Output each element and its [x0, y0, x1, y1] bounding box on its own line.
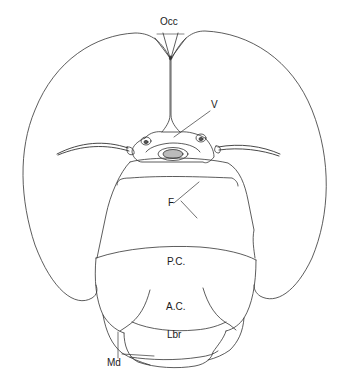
left-antenna: [57, 143, 129, 155]
insect-head-diagram: [0, 0, 346, 379]
label-postclypeus: P.C.: [167, 257, 185, 267]
label-labrum: Lbr: [167, 330, 181, 340]
label-mandible: Md: [107, 358, 121, 368]
anteclypeus-left-lobe: [120, 290, 150, 331]
anteclypeus-right-lobe: [203, 288, 236, 330]
f-leader-upper: [174, 182, 199, 203]
label-anteclypeus: A.C.: [166, 302, 185, 312]
occiput-fan: [155, 33, 186, 58]
f-leader-lower: [181, 201, 197, 218]
label-frons: F: [168, 198, 174, 208]
frons: [130, 158, 255, 258]
label-vertex: V: [211, 100, 218, 110]
frontal-suture: [117, 177, 238, 187]
right-antenna: [218, 145, 280, 156]
label-occiput: Occ: [160, 17, 178, 27]
median-ocellus: [163, 150, 183, 159]
median-suture: [162, 60, 180, 132]
left-compound-eye: [23, 33, 170, 301]
right-compound-eye: [172, 31, 326, 299]
